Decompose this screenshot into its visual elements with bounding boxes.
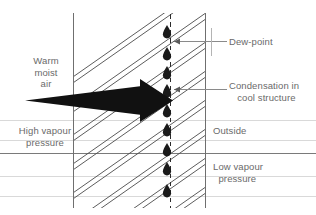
droplet-icon [163, 25, 171, 38]
label-high-vapour-pressure: High vapour pressure [10, 125, 80, 148]
label-warm-moist-air: Warm moist air [18, 55, 74, 90]
diagram-canvas: Warm moist air High vapour pressure Outs… [0, 0, 316, 215]
droplet-icon [163, 66, 171, 79]
arrow-shaft [25, 86, 146, 116]
condensation-droplets [163, 25, 171, 197]
label-condensation: Condensation in cool structure [229, 80, 315, 103]
label-dew-point: Dew-point [229, 36, 313, 48]
label-low-vapour-pressure: Low vapour pressure [213, 161, 293, 184]
label-outside: Outside [213, 125, 293, 137]
